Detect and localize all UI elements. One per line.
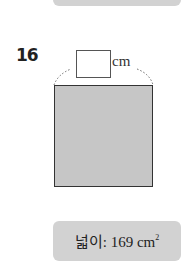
area-text: 넓이: 169 cm2 bbox=[53, 230, 181, 251]
area-info-box: 넓이: 169 cm2 bbox=[53, 221, 181, 261]
square-shape bbox=[54, 85, 153, 187]
